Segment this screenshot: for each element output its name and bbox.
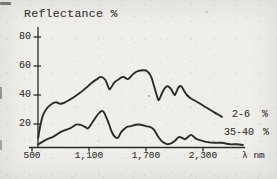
- series-curve-lower: [38, 111, 243, 145]
- x-axis-unit-label: λ nm: [242, 150, 265, 161]
- series-label-upper: 2-6 %: [232, 109, 268, 121]
- series-label-upper-range: 2-6: [232, 109, 250, 121]
- x-axis-tick-label: 2,300: [181, 150, 225, 161]
- series-label-lower-range: 35-40: [224, 127, 254, 139]
- scan-artifact: [0, 140, 2, 150]
- x-axis-tick-label: 1,100: [67, 150, 111, 161]
- x-axis-tick-label: 1,700: [124, 150, 168, 161]
- scanned-reflectance-chart: Reflectance % 806040205001,1001,7002,300…: [0, 0, 277, 179]
- y-axis-tick-label: 20: [10, 118, 31, 129]
- series-label-lower: 35-40 %: [224, 127, 269, 139]
- series-label-upper-unit: %: [262, 109, 268, 121]
- scan-artifact: [0, 2, 11, 5]
- scan-artifact: [205, 11, 208, 13]
- series-label-lower-unit: %: [263, 127, 269, 139]
- series-curve-upper: [38, 70, 222, 138]
- scan-artifact: [148, 95, 150, 97]
- scan-artifact: [0, 87, 2, 99]
- x-axis-tick-label: 500: [10, 150, 54, 161]
- y-axis-tick-label: 80: [10, 31, 31, 42]
- y-axis-tick-label: 60: [10, 60, 31, 71]
- y-axis-tick-label: 40: [10, 89, 31, 100]
